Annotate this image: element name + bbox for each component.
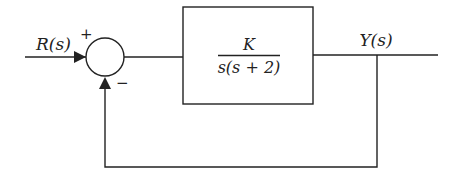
output-label: Y(s): [359, 30, 392, 50]
transfer-function-denominator: s(s + 2): [218, 58, 281, 77]
plus-sign: +: [80, 25, 93, 43]
minus-sign: −: [116, 74, 129, 92]
transfer-function-numerator: K: [242, 35, 256, 54]
block-diagram: R(s) + − K s(s + 2) Y(s): [0, 0, 460, 181]
input-label: R(s): [35, 34, 71, 54]
input-arrowhead-icon: [74, 51, 86, 63]
summing-junction: [86, 38, 124, 76]
feedback-arrowhead-icon: [99, 77, 111, 89]
